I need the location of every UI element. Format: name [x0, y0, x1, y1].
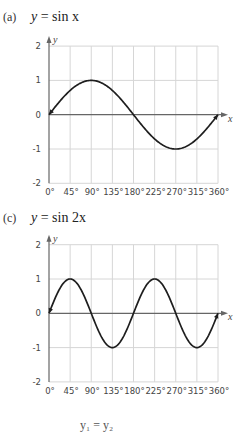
y-axis-label: y: [52, 233, 58, 244]
y-tick-label: -1: [33, 343, 41, 353]
y-axis-label: y: [52, 34, 58, 45]
y-tick-label: -2: [33, 377, 41, 387]
x-axis-arrow-icon: [221, 311, 228, 316]
x-tick-label: 45°: [64, 386, 79, 396]
x-tick-label: 180°: [124, 187, 144, 197]
x-tick-label: 315°: [188, 386, 208, 396]
y-tick-label: -1: [33, 144, 41, 154]
x-tick-label: 90°: [85, 386, 100, 396]
y-tick-label: -2: [33, 178, 41, 188]
x-tick-label: 45°: [64, 187, 79, 197]
x-tick-label: 180°: [124, 386, 144, 396]
x-axis-label: x: [227, 113, 233, 124]
y-tick-label: 2: [36, 41, 41, 51]
x-tick-label: 315°: [188, 187, 208, 197]
x-tick-label: 135°: [103, 187, 123, 197]
y-tick-label: 0: [36, 308, 41, 318]
chart-sin-2x: 0°45°90°135°180°225°270°315°360°210-1-2y…: [0, 198, 239, 403]
x-tick-label: 225°: [145, 386, 165, 396]
y-tick-label: 1: [36, 75, 41, 85]
y-axis-arrow-icon: [47, 36, 52, 43]
y-axis-arrow-icon: [47, 235, 52, 242]
x-tick-label: 0°: [45, 187, 55, 197]
y-tick-label: 0: [36, 110, 41, 120]
x-tick-label: 270°: [167, 187, 187, 197]
x-axis-arrow-icon: [221, 112, 228, 117]
cropped-equation-fragment: y₁ = y₂: [80, 418, 113, 433]
x-tick-label: 225°: [145, 187, 165, 197]
x-tick-label: 360°: [209, 386, 229, 396]
x-axis-label: x: [227, 311, 233, 322]
x-tick-label: 270°: [167, 386, 187, 396]
x-tick-label: 90°: [85, 187, 100, 197]
x-tick-label: 135°: [103, 386, 123, 396]
x-tick-label: 0°: [45, 386, 55, 396]
x-tick-label: 360°: [209, 187, 229, 197]
y-tick-label: 2: [36, 240, 41, 250]
y-tick-label: 1: [36, 274, 41, 284]
chart-sin-x: 0°45°90°135°180°225°270°315°360°210-1-2y…: [0, 0, 239, 200]
